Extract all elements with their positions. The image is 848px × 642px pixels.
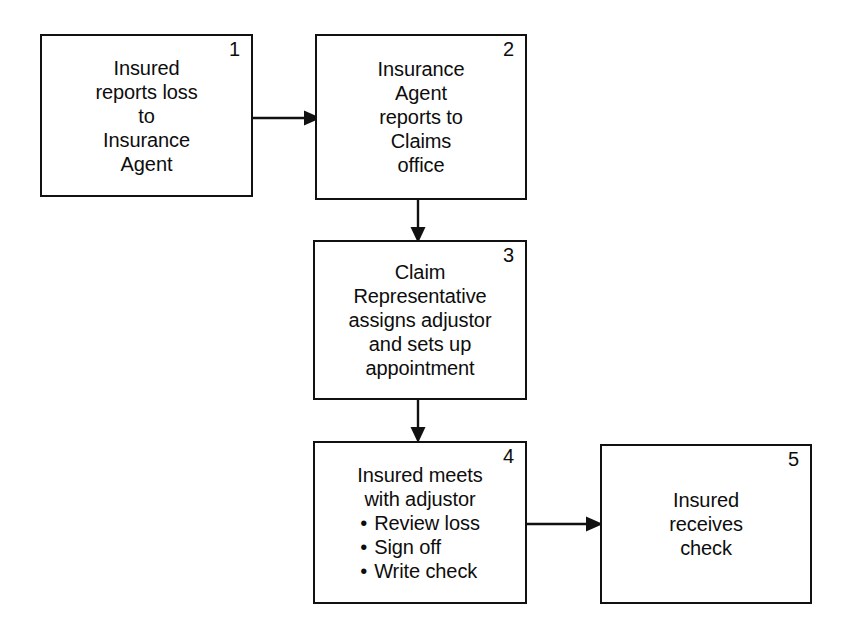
- connector-1-to-2: [250, 105, 324, 131]
- process-box-3-label: Claim Representative assigns adjustor an…: [315, 260, 525, 380]
- process-box-4-line-2: with adjustor: [321, 487, 519, 511]
- step-number-5: 5: [788, 449, 799, 469]
- process-box-3-line-2: Representative: [321, 284, 519, 308]
- process-box-1-line-3: to: [48, 104, 245, 128]
- process-box-2-line-2: Agent: [323, 81, 519, 105]
- step-number-2: 2: [503, 39, 514, 59]
- process-box-2-line-5: office: [323, 153, 519, 177]
- process-box-3-line-5: appointment: [321, 356, 519, 380]
- process-box-1-line-2: reports loss: [48, 80, 245, 104]
- process-box-4-line-1: Insured meets: [321, 463, 519, 487]
- process-box-1[interactable]: 1 Insured reports loss to Insurance Agen…: [40, 34, 253, 197]
- process-box-2-line-3: reports to: [323, 105, 519, 129]
- process-box-1-label: Insured reports loss to Insurance Agent: [42, 56, 251, 176]
- connector-4-to-5: [524, 511, 606, 537]
- process-box-4[interactable]: 4 Insured meets with adjustor Review los…: [313, 441, 527, 604]
- connector-3-to-4: [405, 396, 431, 446]
- process-box-2-line-4: Claims: [323, 129, 519, 153]
- process-box-4-bullet-1: Review loss: [360, 511, 480, 535]
- process-box-5-label: Insured receives check: [602, 488, 810, 560]
- step-number-1: 1: [229, 39, 240, 59]
- process-box-3-line-1: Claim: [321, 260, 519, 284]
- process-box-5-line-1: Insured: [608, 488, 804, 512]
- process-box-5-line-2: receives: [608, 512, 804, 536]
- process-box-4-label: Insured meets with adjustor Review loss …: [315, 463, 525, 583]
- process-box-1-line-4: Insurance: [48, 128, 245, 152]
- process-box-2[interactable]: 2 Insurance Agent reports to Claims offi…: [315, 34, 527, 200]
- process-box-2-line-1: Insurance: [323, 57, 519, 81]
- step-number-3: 3: [503, 245, 514, 265]
- process-box-3[interactable]: 3 Claim Representative assigns adjustor …: [313, 240, 527, 400]
- process-box-1-line-1: Insured: [48, 56, 245, 80]
- connector-2-to-3: [405, 196, 431, 246]
- process-box-1-line-5: Agent: [48, 152, 245, 176]
- process-box-4-bullet-3: Write check: [360, 559, 480, 583]
- process-box-4-bullet-2: Sign off: [360, 535, 480, 559]
- process-box-5-line-3: check: [608, 536, 804, 560]
- process-box-5[interactable]: 5 Insured receives check: [600, 444, 812, 604]
- process-box-4-bullet-list: Review loss Sign off Write check: [360, 511, 480, 583]
- process-box-3-line-3: assigns adjustor: [321, 308, 519, 332]
- process-box-2-label: Insurance Agent reports to Claims office: [317, 57, 525, 177]
- process-box-3-line-4: and sets up: [321, 332, 519, 356]
- flowchart-canvas: 1 Insured reports loss to Insurance Agen…: [0, 0, 848, 642]
- step-number-4: 4: [503, 446, 514, 466]
